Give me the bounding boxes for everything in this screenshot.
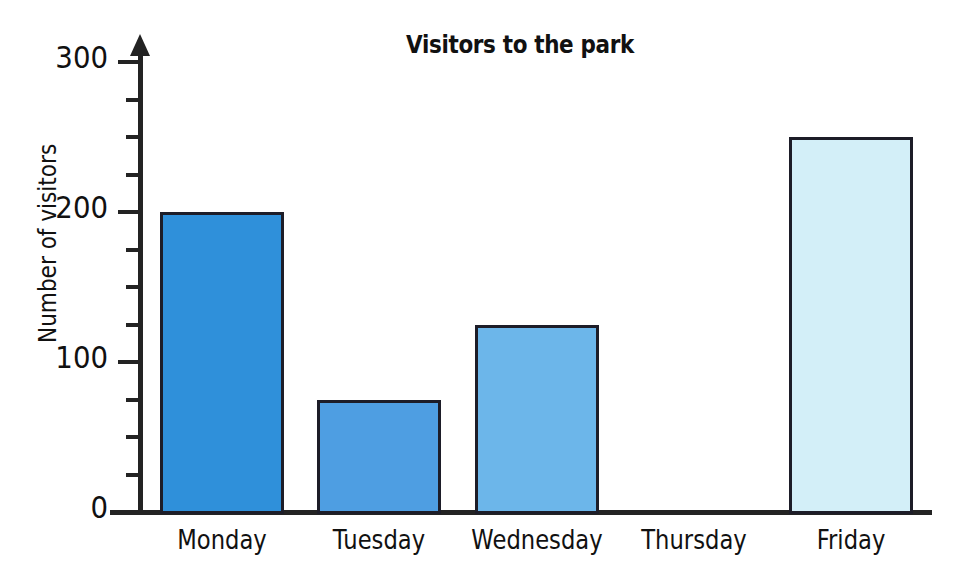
y-axis-minor-tick (126, 135, 143, 139)
y-axis-minor-tick (126, 323, 143, 327)
y-axis-line (138, 52, 143, 514)
y-axis-tick-label: 100 (9, 340, 108, 375)
y-axis-minor-tick (126, 473, 143, 477)
y-axis-major-tick (118, 210, 143, 214)
y-axis-major-tick (118, 360, 143, 364)
bar-chart: Visitors to the park Number of visitors … (0, 0, 958, 585)
y-axis-minor-tick (126, 285, 143, 289)
y-axis-tick-label: 200 (9, 190, 108, 225)
y-axis-label: Number of visitors (34, 145, 62, 343)
bar-wednesday (475, 325, 599, 515)
bar-friday (789, 137, 913, 514)
y-axis-major-tick (118, 60, 143, 64)
chart-title: Visitors to the park (357, 30, 684, 59)
y-axis-minor-tick (126, 248, 143, 252)
x-axis-label-friday: Friday (759, 524, 944, 555)
bar-tuesday (317, 400, 441, 515)
y-axis-minor-tick (126, 435, 143, 439)
y-axis-minor-tick (126, 398, 143, 402)
y-axis-tick-label: 0 (9, 490, 108, 525)
y-axis-minor-tick (126, 173, 143, 177)
y-axis-minor-tick (126, 98, 143, 102)
y-axis-arrow-icon (130, 34, 150, 56)
bar-monday (160, 212, 284, 514)
y-axis-tick-label: 300 (9, 40, 108, 75)
y-axis-major-tick (118, 510, 143, 514)
